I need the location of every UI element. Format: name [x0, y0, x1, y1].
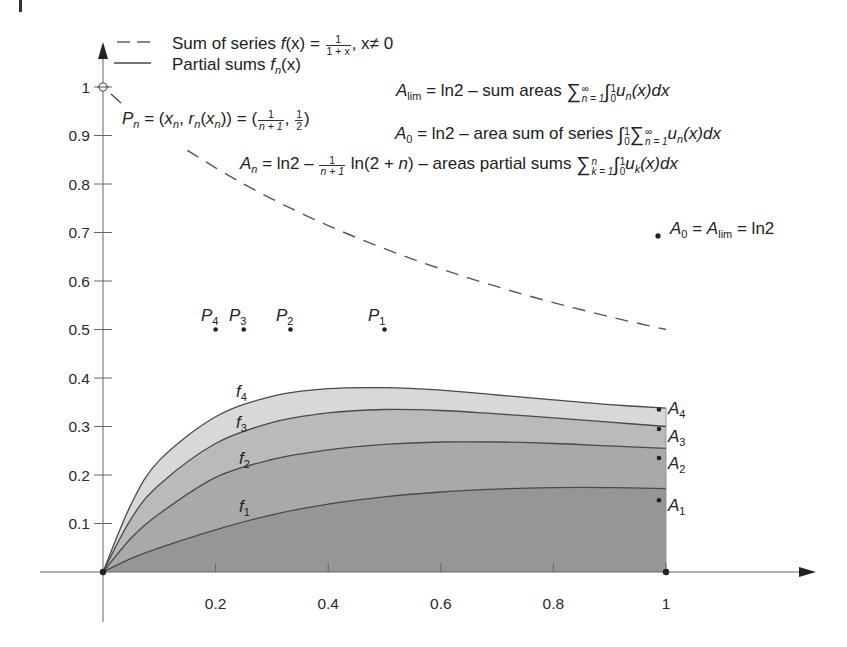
x-tick-label: 1 — [662, 595, 671, 612]
y-tick-label: 0.6 — [68, 273, 90, 290]
point-a4 — [657, 407, 662, 412]
x-one-point — [663, 569, 669, 575]
point-a0-alim-ln2 — [655, 233, 660, 238]
label-f2: f2 — [239, 450, 250, 467]
y-tick-label: 0.5 — [68, 321, 90, 338]
label-a4: A4 — [668, 400, 685, 417]
point-a1 — [657, 498, 662, 503]
y-tick-label: 0.9 — [68, 127, 90, 144]
x-tick-label: 0.2 — [205, 595, 227, 612]
x-tick-label: 0.6 — [430, 595, 452, 612]
x-axis-arrow-icon — [799, 567, 816, 577]
y-tick-label: 0.8 — [68, 176, 90, 193]
label-f1: f1 — [239, 498, 250, 515]
y-axis-arrow-icon — [98, 42, 108, 59]
legend-solid-label: Partial sums fn(x) — [172, 56, 301, 73]
annotation-a0-equals-alim: A0 = Alim = ln2 — [670, 220, 774, 237]
label-p1: P1 — [368, 307, 385, 324]
y-tick-label: 1 — [81, 79, 90, 96]
legend-samples — [114, 42, 151, 63]
y-tick-label: 0.1 — [68, 515, 90, 532]
point-p1 — [382, 327, 387, 332]
point-p4 — [213, 327, 218, 332]
y-tick-label: 0.4 — [68, 370, 90, 387]
area-fills — [103, 388, 666, 572]
label-f3: f3 — [236, 414, 247, 431]
legend-dashed-label: Sum of series f(x) = 11 + x, x≠ 0 — [172, 34, 393, 56]
point-a2 — [657, 456, 662, 461]
label-a3: A3 — [668, 428, 685, 445]
x-tick-label: 0.4 — [317, 595, 339, 612]
sum-of-series-curve — [187, 150, 666, 329]
annotation-a-0: A0 = ln2 – area sum of series ∫10∑∞n = 1… — [395, 124, 721, 147]
label-a1: A1 — [668, 497, 685, 514]
y-tick-label: 0.2 — [68, 467, 90, 484]
label-f4: f4 — [236, 383, 247, 400]
annotation-a-n: An = ln2 – 1n + 1 ln(2 + n) – areas part… — [240, 154, 678, 177]
label-a2: A2 — [668, 455, 685, 472]
x-tick-label: 0.8 — [543, 595, 565, 612]
annotation-p-n: Pn = (xn, rn(xn)) = (1n + 1, 12) — [122, 109, 310, 131]
y-tick-label: 0.3 — [68, 418, 90, 435]
label-p4: P4 — [201, 307, 218, 324]
point-p3 — [241, 327, 246, 332]
y-ticks: 0.10.20.30.40.50.60.70.80.91 — [68, 79, 112, 533]
annotation-a-lim: Alim = ln2 – sum areas ∑∞n = 1∫10un(x)dx — [396, 81, 669, 104]
origin-point — [100, 569, 106, 575]
label-p2: P2 — [276, 307, 293, 324]
label-p3: P3 — [229, 307, 246, 324]
y-tick-label: 0.7 — [68, 224, 90, 241]
point-a3 — [657, 427, 662, 432]
point-p2 — [288, 327, 293, 332]
pn-leader-line — [111, 94, 121, 103]
